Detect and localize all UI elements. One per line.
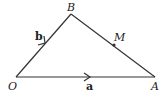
label-vector-a: a [86, 80, 93, 92]
label-A: A [150, 80, 159, 92]
label-vector-b: b [35, 30, 43, 43]
segment-OB [16, 14, 71, 77]
label-M: M [113, 31, 126, 44]
diagram-svg: O A B M b a [0, 0, 166, 92]
label-O: O [8, 80, 17, 92]
vector-triangle-diagram: O A B M b a [0, 0, 166, 92]
label-B: B [66, 1, 75, 14]
